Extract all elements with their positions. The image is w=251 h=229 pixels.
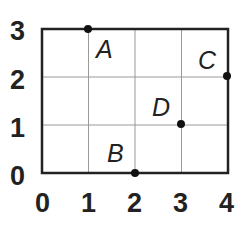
coordinate-grid: 3 2 1 0 0 1 2 3 4 A B C D (0, 0, 251, 229)
x-tick-1: 1 (81, 188, 96, 218)
point-a-label: A (94, 35, 113, 63)
y-tick-0: 0 (10, 161, 25, 191)
x-tick-3: 3 (173, 188, 188, 218)
y-tick-3: 3 (10, 16, 25, 46)
x-tick-0: 0 (35, 188, 50, 218)
point-b-dot (131, 169, 139, 177)
point-b-label: B (107, 139, 124, 167)
point-d-label: D (152, 93, 170, 121)
point-d-dot (177, 120, 185, 128)
y-tick-1: 1 (10, 113, 25, 143)
x-tick-2: 2 (127, 188, 142, 218)
point-c-dot (223, 72, 231, 80)
point-a-dot (84, 25, 92, 33)
y-tick-2: 2 (10, 65, 25, 95)
point-c-label: C (198, 46, 217, 74)
x-tick-4: 4 (219, 188, 234, 218)
